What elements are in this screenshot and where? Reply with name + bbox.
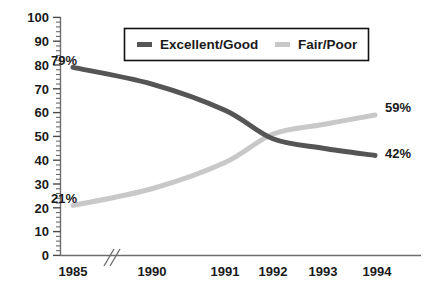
y-tick-label-70: 70 [35,82,49,97]
legend-label-excellent-good: Excellent/Good [160,37,258,52]
series-line-fair-poor [73,115,375,205]
value-label-fp-1985: 21% [51,191,77,206]
y-axis: 100 90 80 70 60 50 40 30 20 10 0 [27,10,60,263]
x-tick-label-1990: 1990 [138,264,167,279]
value-label-eg-1985: 79% [51,53,77,68]
y-tick-label-0: 0 [42,248,49,263]
y-tick-label-50: 50 [35,129,49,144]
x-tick-label-1985: 1985 [59,264,88,279]
x-tick-label-1993: 1993 [309,264,338,279]
value-label-fp-1994: 59% [385,100,411,115]
y-tick-label-40: 40 [35,153,49,168]
x-axis: 1985 1990 1991 1992 1993 1994 [59,249,421,279]
legend-label-fair-poor: Fair/Poor [298,37,358,52]
y-tick-label-60: 60 [35,105,49,120]
y-tick-label-20: 20 [35,201,49,216]
chart-canvas: 100 90 80 70 60 50 40 30 20 10 0 1985 19… [0,0,429,296]
line-chart: 100 90 80 70 60 50 40 30 20 10 0 1985 19… [0,0,429,296]
axis-break-icon [104,249,120,266]
x-tick-label-1992: 1992 [259,264,288,279]
x-tick-label-1994: 1994 [363,264,393,279]
y-tick-label-80: 80 [35,58,49,73]
value-label-eg-1994: 42% [385,146,411,161]
y-tick-label-30: 30 [35,177,49,192]
y-tick-label-10: 10 [35,224,49,239]
x-tick-label-1991: 1991 [211,264,240,279]
series-line-excellent-good [73,67,375,155]
y-tick-label-90: 90 [35,34,49,49]
y-tick-label-100: 100 [27,10,49,25]
legend: Excellent/Good Fair/Poor [125,29,369,61]
